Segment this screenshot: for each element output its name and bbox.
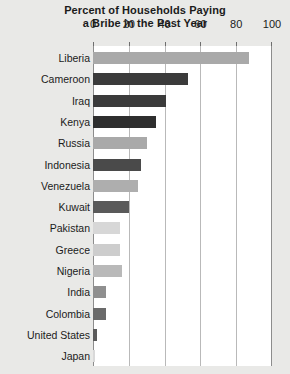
tick-mark-20 (129, 42, 130, 46)
bar-nigeria (93, 265, 122, 277)
bar-row (93, 201, 272, 213)
tick-mark-40 (165, 42, 166, 46)
bar-indonesia (93, 159, 141, 171)
category-label-indonesia: Indonesia (5, 159, 93, 171)
bar-row (93, 350, 272, 362)
category-label-kenya: Kenya (5, 116, 93, 128)
tick-mark-0 (93, 42, 94, 46)
category-label-united-states: United States (5, 329, 93, 341)
x-tick-label-60: 60 (180, 18, 220, 31)
bar-venezuela (93, 180, 138, 192)
x-tick-label-20: 20 (109, 18, 149, 31)
bar-row (93, 159, 272, 171)
bar-pakistan (93, 222, 120, 234)
category-label-japan: Japan (5, 350, 93, 362)
category-label-nigeria: Nigeria (5, 265, 93, 277)
bar-row (93, 73, 272, 85)
bar-row (93, 244, 272, 256)
bar-japan (93, 350, 95, 362)
category-label-kuwait: Kuwait (5, 201, 93, 213)
bar-row (93, 329, 272, 341)
bar-row (93, 137, 272, 149)
tick-mark-80 (236, 42, 237, 46)
bar-colombia (93, 308, 106, 320)
x-tick-label-0: 0 (73, 18, 113, 31)
bar-row (93, 286, 272, 298)
category-label-liberia: Liberia (5, 52, 93, 64)
bar-russia (93, 137, 147, 149)
bar-row (93, 180, 272, 192)
bar-row (93, 52, 272, 64)
category-label-pakistan: Pakistan (5, 222, 93, 234)
bar-kuwait (93, 201, 129, 213)
x-tick-label-80: 80 (216, 18, 256, 31)
bar-row (93, 308, 272, 320)
category-label-cameroon: Cameroon (5, 73, 93, 85)
tick-mark-100 (271, 42, 272, 46)
plot-area: 020406080100 (93, 46, 272, 366)
tick-mark-60 (200, 42, 201, 46)
bar-iraq (93, 95, 166, 107)
bar-greece (93, 244, 120, 256)
category-label-colombia: Colombia (5, 308, 93, 320)
bar-row (93, 265, 272, 277)
bar-united-states (93, 329, 97, 341)
category-label-russia: Russia (5, 137, 93, 149)
category-label-iraq: Iraq (5, 95, 93, 107)
category-label-greece: Greece (5, 244, 93, 256)
bar-row (93, 95, 272, 107)
bar-kenya (93, 116, 156, 128)
category-label-venezuela: Venezuela (5, 180, 93, 192)
bar-india (93, 286, 106, 298)
chart-title-line-1: Percent of Households Paying (0, 4, 290, 17)
bar-row (93, 222, 272, 234)
category-label-india: India (5, 286, 93, 298)
bar-row (93, 116, 272, 128)
bar-cameroon (93, 73, 188, 85)
x-tick-label-40: 40 (145, 18, 185, 31)
bar-chart: Percent of Households Paying a Bribe in … (0, 0, 290, 374)
bar-liberia (93, 52, 249, 64)
x-tick-label-100: 100 (252, 18, 290, 31)
